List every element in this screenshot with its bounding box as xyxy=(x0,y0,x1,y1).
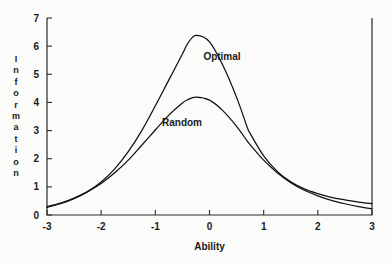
y-axis-title-letter: o xyxy=(13,157,19,167)
y-tick-label: 6 xyxy=(33,41,39,52)
y-axis-title-letter: n xyxy=(13,65,19,75)
x-axis-title-text: Ability xyxy=(194,241,225,252)
y-axis-title-letter: t xyxy=(15,134,18,144)
x-axis-tick-labels: -3-2-10123 xyxy=(43,221,376,232)
y-axis-title-letter: r xyxy=(14,100,18,110)
y-axis-ticks xyxy=(47,18,52,215)
y-tick-label: 5 xyxy=(33,69,39,80)
y-tick-label: 7 xyxy=(33,13,39,24)
x-tick-label: -2 xyxy=(97,221,106,232)
axes-frame xyxy=(47,18,372,215)
y-tick-label: 4 xyxy=(33,97,39,108)
series-label-random: Random xyxy=(162,117,202,128)
information-function-chart: -3-2-10123 01234567 OptimalRandom Abilit… xyxy=(0,0,391,263)
curve-random xyxy=(47,97,372,209)
y-axis-tick-labels: 01234567 xyxy=(33,13,39,221)
x-axis-ticks xyxy=(47,210,372,215)
x-tick-label: 1 xyxy=(261,221,267,232)
y-axis-title-letter: m xyxy=(12,111,20,121)
x-tick-label: 3 xyxy=(369,221,375,232)
y-tick-label: 3 xyxy=(33,125,39,136)
y-axis-title-letter: o xyxy=(13,88,19,98)
y-axis-title-letter: n xyxy=(13,168,19,178)
y-axis-title-letter: I xyxy=(15,54,18,64)
y-tick-label: 1 xyxy=(33,181,39,192)
y-tick-label: 0 xyxy=(33,210,39,221)
x-tick-label: -1 xyxy=(151,221,160,232)
x-axis-title: Ability xyxy=(194,241,225,252)
x-tick-label: 0 xyxy=(207,221,213,232)
y-axis-title-letter: f xyxy=(15,77,19,87)
y-axis-title-letter: i xyxy=(15,145,18,155)
x-tick-label: -3 xyxy=(43,221,52,232)
x-tick-label: 2 xyxy=(315,221,321,232)
y-tick-label: 2 xyxy=(33,153,39,164)
y-axis-title: Information xyxy=(12,54,20,178)
y-axis-title-letter: a xyxy=(13,122,19,132)
series-label-optimal: Optimal xyxy=(203,51,240,62)
plot-frame xyxy=(47,18,372,215)
chart-figure: -3-2-10123 01234567 OptimalRandom Abilit… xyxy=(0,0,391,263)
